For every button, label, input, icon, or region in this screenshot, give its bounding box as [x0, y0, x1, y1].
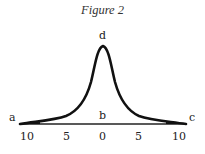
tick-label-left-10: 10 — [20, 131, 34, 142]
tick-label-left-5: 5 — [63, 131, 70, 142]
tick-label-right-10: 10 — [172, 131, 186, 142]
tick-label-0: 0 — [99, 131, 106, 142]
point-label-b: b — [99, 110, 106, 121]
point-label-c: c — [189, 112, 195, 123]
point-label-d: d — [99, 30, 106, 41]
point-label-a: a — [9, 112, 16, 123]
tick-label-right-5: 5 — [135, 131, 142, 142]
